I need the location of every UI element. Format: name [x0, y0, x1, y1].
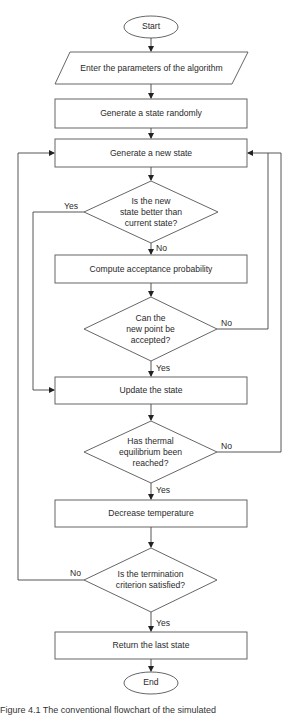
- decision-equilibrium-label: Has thermal equilibrium been reached?: [84, 436, 217, 469]
- branch-equilibrium-yes: Yes: [156, 485, 170, 495]
- branch-equilibrium-no: No: [221, 441, 232, 451]
- branch-termination-yes: Yes: [156, 618, 170, 628]
- decision-equilibrium-line-3: reached?: [84, 458, 217, 469]
- return-label: Return the last state: [55, 640, 247, 651]
- branch-better-yes: Yes: [64, 201, 78, 211]
- decision-accept-label: Can the new point be accepted?: [84, 313, 217, 346]
- input-label: Enter the parameters of the algorithm: [55, 63, 248, 74]
- start-label: Start: [124, 21, 178, 32]
- decision-better-label: Is the new state better than current sta…: [84, 196, 218, 229]
- decision-better-line-2: state better than: [84, 207, 218, 218]
- branch-accept-no: No: [221, 318, 232, 328]
- branch-better-no: No: [156, 243, 167, 253]
- decision-termination-line-2: criterion satisfied?: [84, 580, 217, 591]
- end-label: End: [124, 677, 178, 688]
- decision-termination-label: Is the termination criterion satisfied?: [84, 569, 217, 591]
- decision-better-line-3: current state?: [84, 218, 218, 229]
- decision-accept-line-3: accepted?: [84, 335, 217, 346]
- decision-accept-line-1: Can the: [84, 313, 217, 324]
- decrease-label: Decrease temperature: [55, 508, 247, 519]
- generate-new-label: Generate a new state: [55, 148, 247, 159]
- decision-accept-line-2: new point be: [84, 324, 217, 335]
- decision-equilibrium-line-1: Has thermal: [84, 436, 217, 447]
- decision-better-line-1: Is the new: [84, 196, 218, 207]
- generate-random-label: Generate a state randomly: [55, 108, 247, 119]
- branch-accept-yes: Yes: [156, 363, 170, 373]
- decision-equilibrium-line-2: equilibrium been: [84, 447, 217, 458]
- branch-termination-no: No: [70, 568, 81, 578]
- update-label: Update the state: [55, 385, 247, 396]
- compute-label: Compute acceptance probability: [55, 264, 247, 275]
- decision-termination-line-1: Is the termination: [84, 569, 217, 580]
- figure-caption: Figure 4.1 The conventional flowchart of…: [0, 705, 216, 715]
